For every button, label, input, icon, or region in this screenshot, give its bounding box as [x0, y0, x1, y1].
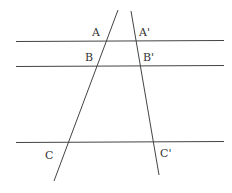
parallel-line-3: [16, 142, 224, 143]
label-A: A: [91, 26, 101, 39]
label-B: B: [85, 51, 93, 64]
parallel-line-2: [16, 66, 224, 67]
parallel-line-1: [16, 41, 224, 42]
label-B-prime: B': [143, 51, 154, 64]
transversal-left: [54, 10, 118, 181]
diagram-canvas: AA'BB'CC': [0, 0, 232, 193]
label-C: C: [45, 149, 53, 162]
parallel-lines: [16, 41, 224, 143]
label-C-prime: C': [160, 147, 171, 160]
parallel-lines-diagram: AA'BB'CC': [0, 0, 232, 193]
label-A-prime: A': [138, 26, 150, 39]
